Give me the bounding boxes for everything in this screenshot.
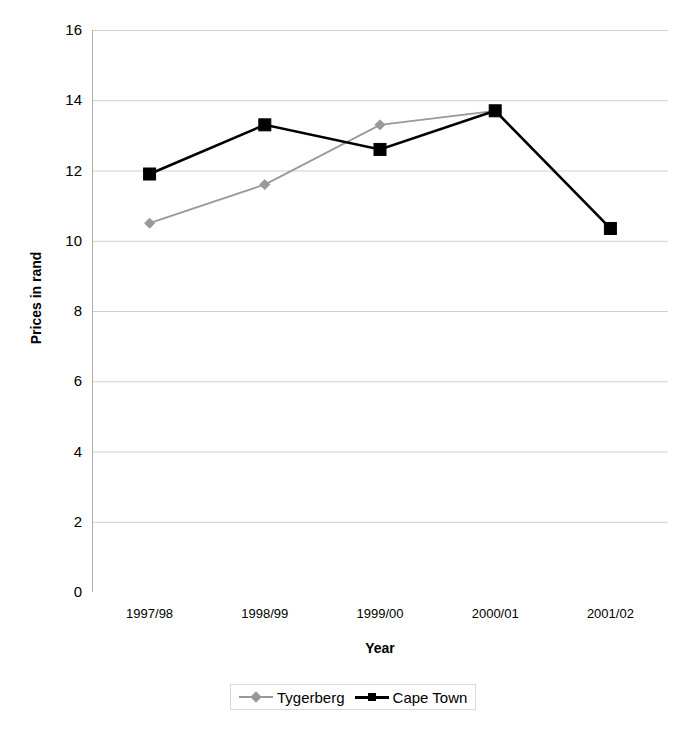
plot-svg bbox=[92, 30, 668, 592]
data-point-marker bbox=[375, 120, 385, 130]
series-tygerberg bbox=[145, 106, 501, 228]
y-axis-tick-label: 14 bbox=[16, 92, 82, 107]
legend-label: Cape Town bbox=[393, 690, 468, 705]
x-axis-tick-label: 1998/99 bbox=[207, 606, 322, 621]
legend-key-diamond-icon bbox=[239, 690, 273, 704]
legend-marker-square-icon bbox=[368, 693, 376, 701]
x-axis-tick-label: 1997/98 bbox=[92, 606, 207, 621]
y-axis-tick-label: 0 bbox=[16, 584, 82, 599]
data-point-marker bbox=[259, 119, 271, 131]
gridlines bbox=[92, 31, 668, 593]
chart-legend: TygerbergCape Town bbox=[230, 684, 476, 710]
data-point-marker bbox=[604, 222, 616, 234]
y-axis-tick-label: 6 bbox=[16, 373, 82, 388]
y-axis-tick-label: 12 bbox=[16, 163, 82, 178]
legend-entry[interactable]: Cape Town bbox=[355, 690, 468, 705]
line-chart: Prices in rand 1614121086420 1997/981998… bbox=[0, 0, 681, 745]
data-point-marker bbox=[489, 105, 501, 117]
y-axis-tick-label: 2 bbox=[16, 514, 82, 529]
y-axis-tick-label: 8 bbox=[16, 303, 82, 318]
x-axis-tick-label: 2001/02 bbox=[553, 606, 668, 621]
x-axis-tick-label: 2000/01 bbox=[438, 606, 553, 621]
y-axis-tick-label: 16 bbox=[16, 22, 82, 37]
y-axis-tick-label: 10 bbox=[16, 233, 82, 248]
legend-marker-diamond-icon bbox=[250, 691, 261, 702]
data-point-marker bbox=[144, 168, 156, 180]
legend-key-square-icon bbox=[355, 690, 389, 704]
data-point-marker bbox=[260, 180, 270, 190]
data-point-marker bbox=[374, 143, 386, 155]
y-axis-tick-label: 4 bbox=[16, 444, 82, 459]
x-axis-tick-label: 1999/00 bbox=[322, 606, 437, 621]
plot-area bbox=[92, 30, 668, 592]
x-axis-title: Year bbox=[92, 640, 668, 656]
legend-label: Tygerberg bbox=[277, 690, 345, 705]
legend-entry[interactable]: Tygerberg bbox=[239, 690, 345, 705]
data-point-marker bbox=[145, 218, 155, 228]
